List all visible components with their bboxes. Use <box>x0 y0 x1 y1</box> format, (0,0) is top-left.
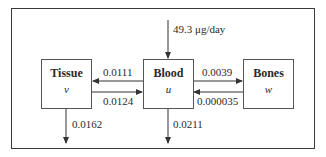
bones-variable: w <box>244 83 293 95</box>
input-rate-label: 49.3 μg/day <box>173 23 225 35</box>
blood-title: Blood <box>144 66 193 80</box>
tissue-to-blood-label: 0.0124 <box>103 95 133 107</box>
tissue-compartment: Tissue v <box>41 59 92 109</box>
tissue-variable: v <box>42 83 91 95</box>
blood-out-label: 0.0211 <box>173 118 203 130</box>
tissue-title: Tissue <box>42 66 91 80</box>
blood-to-tissue-label: 0.0111 <box>103 66 132 78</box>
bones-to-blood-label: 0.000035 <box>197 95 238 107</box>
tissue-out-label: 0.0162 <box>72 118 102 130</box>
bones-compartment: Bones w <box>243 59 294 109</box>
blood-to-bones-label: 0.0039 <box>202 66 232 78</box>
blood-compartment: Blood u <box>143 59 194 109</box>
bones-title: Bones <box>244 66 293 80</box>
blood-variable: u <box>144 83 193 95</box>
